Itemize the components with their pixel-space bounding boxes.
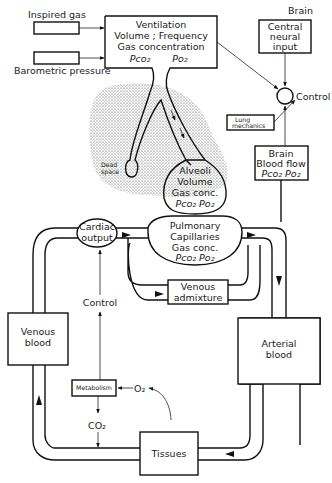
svg-text:Tissues: Tissues (151, 448, 187, 459)
cardiac-output-node: Cardiac output (77, 219, 117, 247)
svg-text:output: output (81, 232, 113, 243)
svg-text:Metabolism: Metabolism (76, 384, 112, 391)
control-node (277, 88, 293, 104)
svg-text:Cardiac: Cardiac (79, 221, 115, 232)
svg-text:Pco₂ Po₂: Pco₂ Po₂ (176, 252, 215, 263)
svg-text:Venous: Venous (181, 281, 215, 292)
brain-label: Brain (288, 5, 313, 16)
venous-blood-box: Venous blood (8, 313, 68, 365)
svg-text:admixture: admixture (174, 292, 223, 303)
svg-text:Pco₂ Po₂: Pco₂ Po₂ (176, 198, 215, 209)
svg-text:Gas conc.: Gas conc. (172, 187, 218, 198)
svg-text:Volume: Volume (177, 176, 212, 187)
barometric-pressure-input: Barometric pressure (14, 52, 111, 76)
svg-text:Pco₂ Po₂: Pco₂ Po₂ (262, 168, 301, 179)
control-label: Control (296, 91, 330, 102)
venous-admixture-box: Venous admixture (168, 280, 228, 304)
svg-text:Ventilation: Ventilation (136, 19, 187, 30)
inspired-gas-label: Inspired gas (28, 9, 86, 20)
gas-exchange-diagram: Inspired gas Barometric pressure Ventila… (0, 0, 332, 483)
o2-label: O₂ (134, 383, 145, 394)
svg-text:blood: blood (25, 337, 51, 348)
ventilation-box: Ventilation Volume ; Frequency Gas conce… (105, 16, 217, 92)
svg-text:Pco₂: Pco₂ (130, 53, 151, 64)
circulation-control-label: Control (83, 297, 117, 308)
co2-label: CO₂ (88, 420, 106, 431)
svg-text:Venous: Venous (21, 326, 55, 337)
svg-text:blood: blood (266, 349, 292, 360)
svg-text:Pulmonary: Pulmonary (170, 220, 221, 231)
svg-text:space: space (101, 168, 119, 176)
barometric-pressure-label: Barometric pressure (14, 65, 111, 76)
svg-text:Volume ; Frequency: Volume ; Frequency (114, 30, 208, 41)
brain-blood-flow-box: Brain Blood flow Pco₂ Po₂ (255, 146, 308, 180)
arterial-blood-box: Arterial blood (238, 318, 320, 384)
dead-space-label: Dead (101, 161, 117, 168)
svg-text:mechanics: mechanics (232, 122, 265, 129)
svg-text:Gas concentration: Gas concentration (118, 41, 205, 52)
inspired-gas-input: Inspired gas (28, 9, 104, 34)
svg-text:Po₂: Po₂ (172, 53, 188, 64)
tissues-box: Tissues (140, 432, 198, 475)
svg-text:Arterial: Arterial (262, 338, 297, 349)
central-neural-input-box: Central neural input (259, 20, 311, 53)
metabolism-box: Metabolism (72, 380, 116, 396)
pulmonary-capillaries: Pulmonary Capillaries Gas conc. Pco₂ Po₂ (148, 216, 242, 265)
svg-text:input: input (273, 41, 298, 52)
svg-text:Capillaries: Capillaries (170, 231, 220, 242)
svg-text:Alveoli: Alveoli (179, 165, 211, 176)
